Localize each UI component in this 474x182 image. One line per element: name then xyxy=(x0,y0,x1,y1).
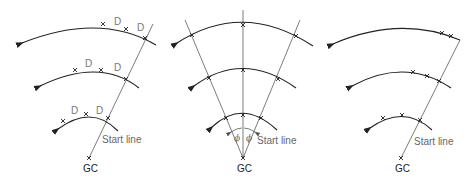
arc-outer xyxy=(22,28,156,45)
arc-inner xyxy=(212,113,277,130)
arc-outer xyxy=(177,22,313,46)
gc-label: GC xyxy=(83,163,98,174)
spacing-label-d: D xyxy=(114,62,121,73)
diagram-canvas: D D D D D D Start line GC ϕ ϕ xyxy=(0,0,474,182)
gc-label: GC xyxy=(237,163,252,174)
spacing-label-d: D xyxy=(96,105,103,116)
panel-left: D D D D D D Start line GC xyxy=(22,16,156,174)
arc-outer xyxy=(333,28,460,44)
spacing-label-d: D xyxy=(114,16,121,27)
angle-arc-right xyxy=(244,128,255,132)
gc-marker xyxy=(399,156,403,160)
arc-inner xyxy=(370,116,432,130)
gc-label: GC xyxy=(395,163,410,174)
scan-patterns-diagram: D D D D D D Start line GC ϕ ϕ xyxy=(0,0,474,182)
spacing-label-d: D xyxy=(71,105,78,116)
start-line-label: Start line xyxy=(414,136,454,147)
arc-middle xyxy=(40,72,139,88)
spacing-label-d: D xyxy=(85,58,92,69)
arc-middle xyxy=(352,72,451,88)
panel-middle: ϕ ϕ Start line GC xyxy=(177,10,313,174)
angle-arc-left xyxy=(231,128,242,132)
gc-marker xyxy=(87,156,91,160)
start-line-label: Start line xyxy=(257,135,297,146)
panel-right: Start line GC xyxy=(333,28,460,174)
spacing-label-d: D xyxy=(137,22,144,33)
angle-label-phi: ϕ xyxy=(246,133,252,143)
angle-label-phi: ϕ xyxy=(234,133,240,143)
start-line-label: Start line xyxy=(102,134,142,145)
